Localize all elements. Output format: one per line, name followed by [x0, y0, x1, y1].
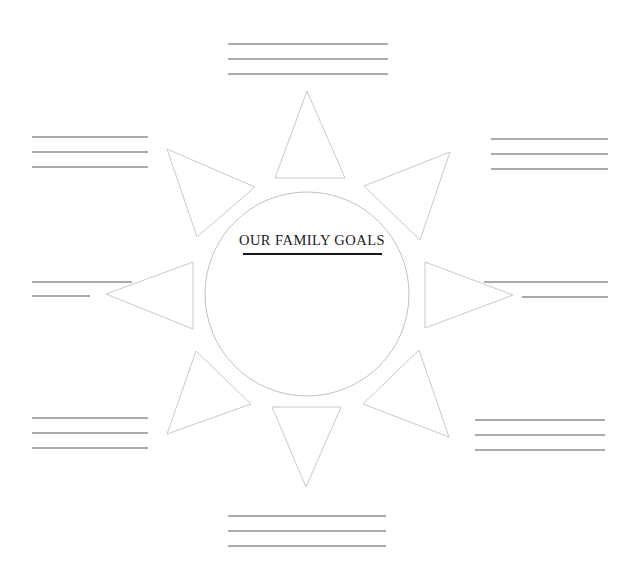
center-circle[interactable] — [205, 192, 409, 396]
page-title: OUR FAMILY GOALS — [239, 232, 385, 248]
family-goals-worksheet: OUR FAMILY GOALS — [0, 0, 639, 574]
